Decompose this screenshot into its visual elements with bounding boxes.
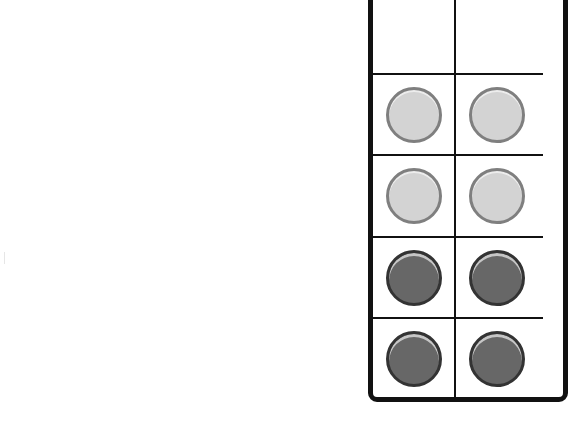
frame-cell (373, 156, 455, 236)
ten-frame-grid (373, 0, 543, 397)
frame-cell (456, 75, 538, 155)
frame-cell (373, 319, 455, 399)
dark-counter-icon (469, 250, 525, 306)
light-counter-icon (386, 87, 442, 143)
frame-cell (373, 75, 455, 155)
light-counter-icon (469, 87, 525, 143)
light-counter-icon (386, 168, 442, 224)
dark-counter-icon (386, 250, 442, 306)
frame-cell (373, 0, 455, 74)
frame-cell (373, 238, 455, 318)
dark-counter-icon (469, 331, 525, 387)
dark-counter-icon (386, 331, 442, 387)
frame-cell (456, 319, 538, 399)
light-counter-icon (469, 168, 525, 224)
stray-mark (4, 252, 5, 264)
frame-cell (456, 156, 538, 236)
frame-cell (456, 238, 538, 318)
frame-cell (456, 0, 538, 74)
